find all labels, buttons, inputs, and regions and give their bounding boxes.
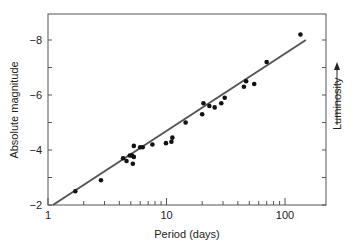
right-axis-ticks bbox=[322, 40, 326, 205]
y-tick-label: −8 bbox=[29, 34, 42, 46]
y-tick-label: −6 bbox=[29, 89, 42, 101]
data-point bbox=[99, 178, 104, 183]
data-point bbox=[140, 145, 145, 150]
data-point bbox=[132, 155, 137, 160]
x-axis-label: Period (days) bbox=[154, 228, 219, 240]
data-point bbox=[201, 101, 206, 106]
data-point bbox=[169, 139, 174, 144]
data-point bbox=[200, 112, 205, 117]
luminosity-indicator: Luminosity bbox=[331, 62, 343, 130]
data-point bbox=[131, 161, 136, 166]
data-point bbox=[150, 142, 155, 147]
y-axis: −8−6−4−2 bbox=[29, 34, 52, 211]
fit-line bbox=[53, 40, 306, 205]
data-point bbox=[132, 144, 137, 149]
data-point bbox=[124, 159, 129, 164]
data-point bbox=[252, 82, 257, 87]
data-point bbox=[298, 32, 303, 37]
plot-frame bbox=[48, 14, 326, 205]
data-point bbox=[222, 95, 227, 100]
x-axis: 110100 bbox=[45, 198, 294, 221]
arrow-head-icon bbox=[334, 62, 340, 70]
data-point bbox=[73, 189, 78, 194]
x-tick-label: 1 bbox=[45, 209, 51, 221]
period-luminosity-chart: −8−6−4−2 110100 Period (days) Absolute m… bbox=[0, 0, 358, 249]
data-point bbox=[212, 105, 217, 110]
y-tick-label: −2 bbox=[29, 199, 42, 211]
y-tick-label: −4 bbox=[29, 144, 42, 156]
y-axis-label: Absolute magnitude bbox=[8, 61, 20, 158]
x-tick-label: 10 bbox=[160, 209, 172, 221]
data-point bbox=[170, 135, 175, 140]
data-point bbox=[264, 60, 269, 65]
data-point bbox=[207, 104, 212, 109]
data-point bbox=[244, 79, 249, 84]
data-point bbox=[183, 120, 188, 125]
data-point bbox=[164, 141, 169, 146]
data-point bbox=[242, 84, 247, 89]
data-point bbox=[219, 101, 224, 106]
x-tick-label: 100 bbox=[276, 209, 294, 221]
